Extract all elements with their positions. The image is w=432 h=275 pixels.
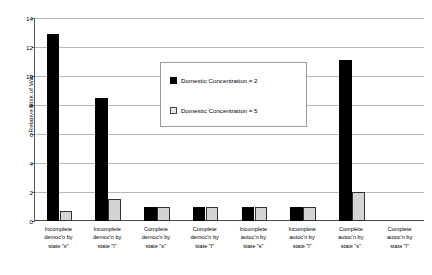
legend-item-0: Domestic Concentration = 2	[170, 77, 258, 84]
y-tick-label-12: 12	[26, 44, 33, 51]
bar-group	[376, 18, 425, 221]
bar-series-1	[290, 207, 303, 222]
x-tick-label-line: state "s"	[229, 242, 278, 250]
legend-item-1: Domestic Concentration = 5	[170, 107, 258, 114]
bar-series-1	[339, 60, 352, 221]
x-tick-label: Incompletedemoc'n bystate "l"	[83, 225, 132, 250]
bar-series-2	[303, 207, 316, 222]
legend-swatch-icon-series-2	[170, 107, 177, 114]
bar-series-2	[157, 207, 170, 222]
x-tick-label-line: democ'n by	[132, 233, 181, 241]
legend-label-series-2: Domestic Concentration = 5	[181, 107, 258, 114]
x-tick-label-line: state "l"	[180, 242, 229, 250]
x-tick-label: Completedemoc'n bystate "s"	[132, 225, 181, 250]
bar-series-1	[242, 207, 255, 222]
bar-group	[84, 18, 133, 221]
bar-series-1	[47, 34, 60, 221]
bar-series-2	[60, 211, 73, 221]
x-tick-label-line: state "s"	[327, 242, 376, 250]
bar-series-2	[206, 207, 219, 222]
y-tick-label-0: 0	[30, 218, 33, 225]
bar-series-2	[255, 207, 268, 222]
y-tick-label-6: 6	[30, 131, 33, 138]
x-tick-label-line: state "s"	[34, 242, 83, 250]
legend-swatch-icon-series-1	[170, 77, 177, 84]
bar-series-1	[95, 98, 108, 221]
x-tick-label-line: Complete	[132, 225, 181, 233]
bar-series-1	[144, 207, 157, 222]
legend-label-series-1: Domestic Concentration = 2	[181, 77, 258, 84]
x-tick-label-line: democ'n by	[34, 233, 83, 241]
x-tick-label-line: autoc'n by	[327, 233, 376, 241]
chart-legend: Domestic Concentration = 2 Domestic Conc…	[160, 62, 307, 127]
y-tick-label-8: 8	[30, 102, 33, 109]
x-tick-label-line: autoc'n by	[375, 233, 424, 241]
x-tick-label-line: state "l"	[375, 242, 424, 250]
x-tick-label: Completeautoc'n bystate "s"	[327, 225, 376, 250]
bar-group	[35, 18, 84, 221]
x-tick-label-line: Complete	[180, 225, 229, 233]
x-tick-label-line: state "l"	[83, 242, 132, 250]
x-tick-label-line: state "s"	[132, 242, 181, 250]
x-tick-label-line: Incomplete	[34, 225, 83, 233]
bar-series-1	[193, 207, 206, 222]
x-tick-label-line: democ'n by	[83, 233, 132, 241]
x-tick-label-line: Incomplete	[83, 225, 132, 233]
x-tick-label-line: Incomplete	[278, 225, 327, 233]
x-tick-label-line: autoc'n by	[278, 233, 327, 241]
x-tick-label: Incompleteautoc'n bystate "s"	[229, 225, 278, 250]
y-tick-label-14: 14	[26, 15, 33, 22]
y-tick-label-10: 10	[26, 73, 33, 80]
x-tick-label: Completedemoc'n bystate "l"	[180, 225, 229, 250]
x-tick-label-line: Incomplete	[229, 225, 278, 233]
x-axis-tick-labels: Incompletedemoc'n bystate "s"Incompleted…	[34, 225, 424, 273]
chart-figure: Relative Risk of War 02468101214 Incompl…	[0, 0, 432, 275]
x-tick-label-line: state "l"	[278, 242, 327, 250]
bar-series-2	[352, 192, 365, 221]
y-tick-label-2: 2	[30, 189, 33, 196]
x-tick-label: Incompleteautoc'n bystate "l"	[278, 225, 327, 250]
bar-group	[328, 18, 377, 221]
x-tick-label-line: autoc'n by	[229, 233, 278, 241]
x-tick-label: Completeautoc'n bystate "l"	[375, 225, 424, 250]
bar-series-2	[108, 199, 121, 221]
x-tick-label-line: Complete	[327, 225, 376, 233]
x-tick-label-line: Complete	[375, 225, 424, 233]
y-tick-label-4: 4	[30, 160, 33, 167]
x-tick-label-line: democ'n by	[180, 233, 229, 241]
x-tick-label: Incompletedemoc'n bystate "s"	[34, 225, 83, 250]
